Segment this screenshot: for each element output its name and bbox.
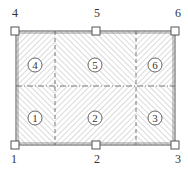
region-label-3: 3 — [152, 112, 158, 124]
support-node-5 — [92, 27, 100, 35]
support-node-2 — [92, 141, 100, 149]
node-label-5: 5 — [94, 6, 100, 20]
node-label-1: 1 — [11, 152, 17, 166]
region-label-2: 2 — [92, 112, 98, 124]
region-label-5: 5 — [92, 59, 98, 71]
support-node-3 — [171, 141, 179, 149]
region-label-1: 1 — [32, 112, 38, 124]
region-label-4: 4 — [32, 59, 38, 71]
node-label-6: 6 — [175, 6, 181, 20]
hatched-regions — [16, 31, 175, 145]
node-label-2: 2 — [94, 152, 100, 166]
slab-diagram: 123456123456 — [0, 0, 188, 171]
support-node-6 — [171, 27, 179, 35]
node-label-3: 3 — [175, 152, 181, 166]
support-node-1 — [11, 141, 19, 149]
region-label-6: 6 — [152, 59, 158, 71]
node-label-4: 4 — [12, 6, 18, 20]
support-node-4 — [11, 27, 19, 35]
